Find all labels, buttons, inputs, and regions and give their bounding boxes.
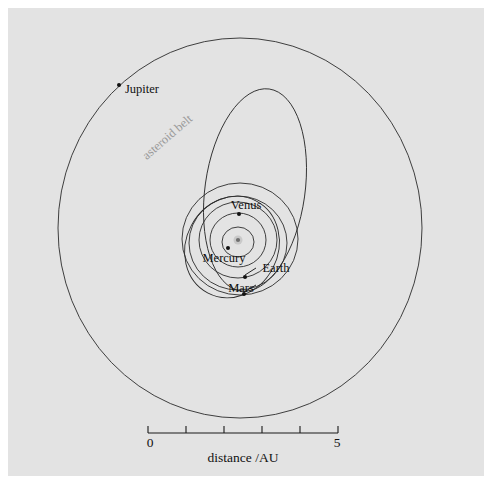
scale-tick-label-max: 5 bbox=[334, 435, 341, 450]
x-axis-title: distance /AU bbox=[208, 450, 279, 465]
scale-tick-label-min: 0 bbox=[147, 435, 154, 450]
sun-dot-icon bbox=[236, 238, 240, 242]
orbits-layer bbox=[58, 38, 422, 418]
annotations-layer: asteroid belt bbox=[140, 111, 196, 162]
orbit-comet-orbit-outer bbox=[191, 82, 318, 298]
planet-label-jupiter: Jupiter bbox=[125, 82, 160, 96]
planet-dot-venus bbox=[237, 212, 241, 216]
scale-bar-line bbox=[148, 426, 338, 433]
planet-label-mercury: Mercury bbox=[202, 251, 246, 265]
orbit-diagram: MercuryVenusEarthMarsJupiter asteroid be… bbox=[0, 0, 492, 491]
planet-label-venus: Venus bbox=[231, 198, 262, 212]
planet-dot-mercury bbox=[226, 246, 230, 250]
planet-label-earth: Earth bbox=[262, 261, 290, 275]
sun-marker bbox=[234, 236, 243, 245]
scale-bar: 0 5 distance /AU bbox=[147, 426, 341, 465]
orbit-jupiter bbox=[58, 38, 422, 418]
planet-dot-jupiter bbox=[117, 83, 121, 87]
planet-label-mars: Mars bbox=[228, 281, 254, 295]
planet-dot-earth bbox=[243, 275, 247, 279]
figure-root: MercuryVenusEarthMarsJupiter asteroid be… bbox=[0, 0, 492, 491]
leader-line-earth bbox=[245, 268, 256, 275]
annotation-asteroid-belt: asteroid belt bbox=[140, 111, 196, 162]
